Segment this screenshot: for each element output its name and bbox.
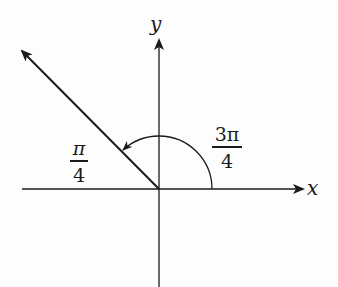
x-axis-label: x <box>307 176 318 200</box>
ref-denominator: 4 <box>73 165 85 185</box>
fraction-bar <box>212 146 242 148</box>
fraction-bar <box>70 160 88 162</box>
angle-numerator: 3π <box>215 124 240 144</box>
diagram-graphics <box>0 0 338 287</box>
terminal-ray <box>22 51 159 189</box>
angle-denominator: 4 <box>221 151 233 171</box>
angle-label-pi-over-4: π 4 <box>70 138 88 185</box>
angle-diagram: y x 3π 4 π 4 <box>0 0 338 287</box>
angle-arc <box>123 136 212 189</box>
ref-numerator: π <box>73 138 86 158</box>
angle-label-3pi-over-4: 3π 4 <box>212 124 242 171</box>
y-axis-label: y <box>150 12 161 36</box>
